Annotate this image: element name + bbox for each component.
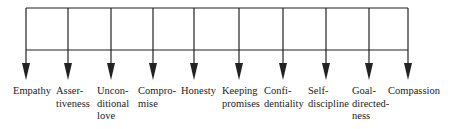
label-line: Compassion [388, 85, 440, 98]
label-line: tiveness [56, 98, 90, 111]
label-line: ditional [97, 98, 129, 111]
arrow-head-icon [365, 63, 373, 80]
value-label-assertiveness: Asser-tiveness [56, 85, 90, 110]
values-tree-diagram: EmpathyAsser-tivenessUncon-ditionalloveC… [0, 0, 452, 129]
value-label-keeping-promises: Keepingpromises [222, 85, 260, 110]
label-line: Uncon- [97, 85, 129, 98]
value-label-compromise: Compro-mise [138, 85, 176, 110]
value-label-honesty: Honesty [181, 85, 216, 98]
label-line: Empathy [13, 85, 51, 98]
arrow-head-icon [64, 63, 72, 80]
label-line: dentiality [264, 98, 304, 111]
label-line: Compro- [138, 85, 176, 98]
arrow-head-icon [107, 63, 115, 80]
label-line: discipline [308, 98, 349, 111]
label-line: directed- [352, 98, 389, 111]
arrow-head-icon [22, 63, 30, 80]
value-label-confidentiality: Confi-dentiality [264, 85, 304, 110]
label-line: Self- [308, 85, 349, 98]
arrow-head-icon [404, 63, 412, 80]
value-label-self-discipline: Self-discipline [308, 85, 349, 110]
arrow-head-icon [322, 63, 330, 80]
label-line: love [97, 110, 129, 123]
label-line: Keeping [222, 85, 260, 98]
arrow-head-icon [279, 63, 287, 80]
label-line: promises [222, 98, 260, 111]
arrow-head-icon [235, 63, 243, 80]
label-line: Goal- [352, 85, 389, 98]
arrow-head-icon [149, 63, 157, 80]
value-label-compassion: Compassion [388, 85, 440, 98]
value-label-goal-directedness: Goal-directed-ness [352, 85, 389, 123]
value-label-empathy: Empathy [13, 85, 51, 98]
value-label-unconditional-love: Uncon-ditionallove [97, 85, 129, 123]
label-line: Confi- [264, 85, 304, 98]
label-line: ness [352, 110, 389, 123]
label-line: mise [138, 98, 176, 111]
arrow-head-icon [190, 63, 198, 80]
label-line: Asser- [56, 85, 90, 98]
label-line: Honesty [181, 85, 216, 98]
